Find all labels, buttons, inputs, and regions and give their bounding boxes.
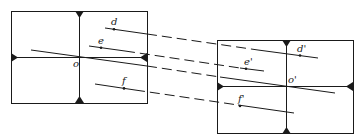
label-e: e	[98, 36, 104, 46]
point-d	[113, 28, 116, 31]
label-d-prime: d'	[297, 44, 306, 54]
label-o: o	[73, 59, 79, 69]
right-top-fiducial-icon	[282, 40, 291, 47]
label-f-prime: f'	[238, 94, 244, 104]
left-left-fiducial-icon	[11, 53, 18, 62]
label-f: f	[122, 76, 126, 86]
point-e	[100, 46, 103, 49]
label-e-prime: e'	[244, 57, 253, 67]
left-top-fiducial-icon	[75, 11, 84, 18]
diagram-svg	[0, 0, 364, 140]
right-right-fiducial-icon	[346, 82, 353, 91]
label-o-prime: o'	[288, 75, 297, 85]
point-f	[123, 87, 126, 90]
diagram-canvas: d e o f d' e' o' f'	[0, 0, 364, 140]
left-right-fiducial-icon	[140, 53, 147, 62]
point-f-prime	[239, 105, 242, 108]
line-e	[89, 46, 264, 71]
right-left-fiducial-icon	[217, 82, 224, 91]
right-bottom-fiducial-icon	[282, 127, 291, 134]
point-e-prime	[245, 68, 248, 71]
left-bottom-fiducial-icon	[75, 96, 84, 103]
line-o	[31, 50, 335, 93]
point-d-prime	[299, 54, 302, 57]
label-d: d	[111, 17, 117, 27]
